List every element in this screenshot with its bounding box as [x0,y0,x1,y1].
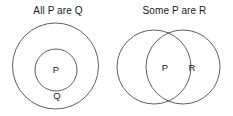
panel-all-p-are-q: All P are Q P Q [0,0,116,116]
region-label-p: P [53,65,59,75]
venn-diagram-overlapping-circles [116,0,233,116]
region-label-r: R [189,63,196,73]
region-label-p: P [162,63,168,73]
venn-diagram-figure: All P are Q P Q Some P are R P R [0,0,233,116]
circle-left-p [117,30,191,104]
region-label-q: Q [53,91,60,101]
panel-some-p-are-r: Some P are R P R [116,0,233,116]
circle-right-r [146,30,220,104]
